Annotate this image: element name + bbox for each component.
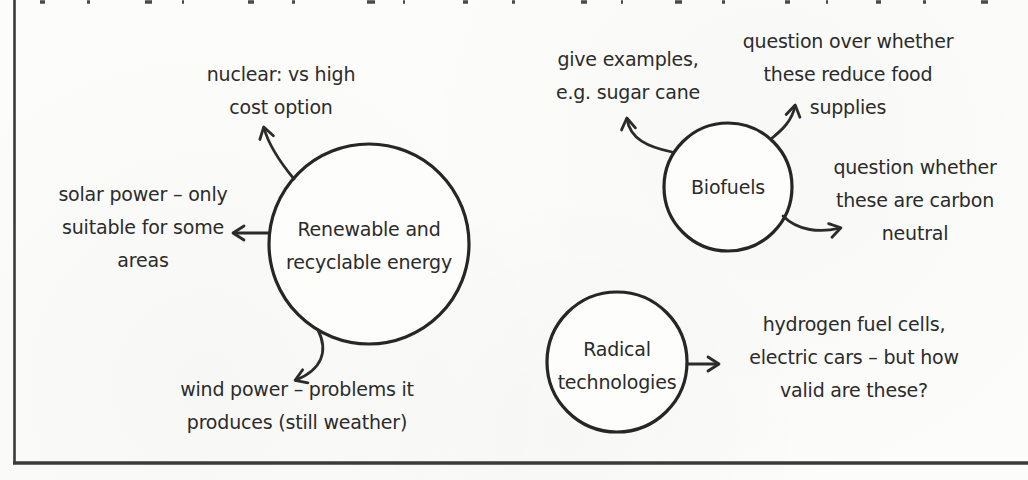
carbon-neutral-branch-label: question whether these are carbon neutra… xyxy=(802,151,1028,250)
renewable-node-label: Renewable and recyclable energy xyxy=(259,213,479,279)
biofuels-node-label: Biofuels xyxy=(658,171,798,204)
examples-branch-label: give examples, e.g. sugar cane xyxy=(518,43,738,109)
radical-node-label: Radical technologies xyxy=(517,333,717,399)
wind-branch-label: wind power – problems it produces (still… xyxy=(157,373,437,439)
food-supplies-branch-label: question over whether these reduce food … xyxy=(728,25,968,124)
examples-arrow xyxy=(627,119,672,152)
hydrogen-branch-label: hydrogen fuel cells, electric cars – but… xyxy=(724,308,984,407)
solar-branch-label: solar power – only suitable for some are… xyxy=(23,178,263,277)
scanned-book-figure-page: { "figure": { "type": "mind-map", "ink_c… xyxy=(0,0,1028,480)
nuclear-branch-label: nuclear: vs high cost option xyxy=(171,58,391,124)
nuclear-arrow xyxy=(264,128,294,179)
